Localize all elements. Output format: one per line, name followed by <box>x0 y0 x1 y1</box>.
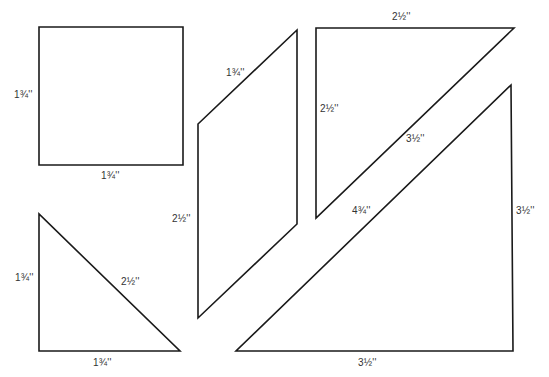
square-side-label: 1¾'' <box>14 89 33 100</box>
small-triangle-side-label: 1¾'' <box>15 272 34 283</box>
small-triangle-hypotenuse-label: 2½'' <box>121 276 140 287</box>
medium-triangle-shape <box>316 28 514 218</box>
large-triangle-hypotenuse-label: 4¾'' <box>352 205 371 216</box>
large-triangle-side-label: 3½'' <box>516 205 535 216</box>
large-triangle-shape <box>236 85 513 351</box>
parallelogram-shape <box>198 30 297 318</box>
pattern-pieces-diagram: 1¾'' 1¾'' 1¾'' 2½'' 1¾'' 1¾'' 2½'' 2½'' … <box>0 0 549 377</box>
small-triangle-bottom-label: 1¾'' <box>93 357 112 368</box>
parallelogram-slant-label: 1¾'' <box>226 67 245 78</box>
square-shape <box>39 27 183 165</box>
parallelogram-side-label: 2½'' <box>172 213 191 224</box>
shapes-layer <box>0 0 549 377</box>
small-triangle-shape <box>39 214 180 351</box>
medium-triangle-top-label: 2½'' <box>392 11 411 22</box>
medium-triangle-hypotenuse-label: 3½'' <box>406 133 425 144</box>
square-bottom-label: 1¾'' <box>101 170 120 181</box>
medium-triangle-side-label: 2½'' <box>320 103 339 114</box>
large-triangle-bottom-label: 3½'' <box>358 357 377 368</box>
